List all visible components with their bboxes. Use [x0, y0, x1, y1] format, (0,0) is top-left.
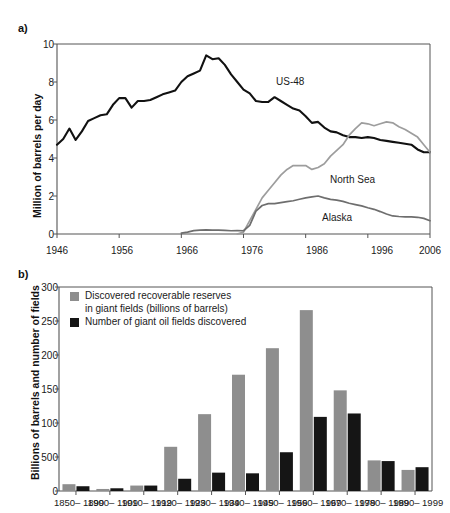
legend-swatch-fields [70, 318, 79, 327]
panel-a-xtick-1946: 1946 [40, 245, 74, 256]
legend-item-fields: Number of giant oil fields discovered [70, 316, 246, 329]
panel-a-xtick-1986: 1986 [300, 245, 334, 256]
legend-swatch-reserves [70, 292, 79, 301]
panel-a-series-label-alaska: Alaska [322, 212, 352, 223]
panel-b-ytick-50: 500 [34, 452, 58, 463]
panel-a-series-label-us48: US-48 [276, 76, 304, 87]
legend-label-fields: Number of giant oil fields discovered [85, 316, 246, 329]
figure-container: a) Million of barrels per day 10 8 6 4 2… [0, 0, 450, 513]
legend-item-reserves: Discovered recoverable reserves in giant… [70, 290, 231, 315]
panel-a-xtick-1976: 1976 [235, 245, 269, 256]
panel-a-ytick-6: 6 [34, 115, 54, 126]
panel-b-ytick-150: 150 [34, 384, 58, 395]
panel-a-ytick-2: 2 [34, 191, 54, 202]
panel-b-xtick-10: 1990– 1999 [393, 497, 437, 509]
panel-b-ytick-100: 100 [34, 418, 58, 429]
panel-a-xtick-1996: 1996 [365, 245, 399, 256]
panel-b-giant-fields-chart: b) Billions of barrels and number of fie… [0, 265, 450, 513]
panel-b-y-axis-title: Billions of barrels and number of fields [29, 285, 41, 480]
panel-a-label: a) [18, 22, 28, 34]
panel-a-oil-production-chart: a) Million of barrels per day 10 8 6 4 2… [0, 0, 450, 265]
panel-a-series-label-north-sea: North Sea [330, 174, 375, 185]
panel-b-ytick-200: 200 [34, 350, 58, 361]
panel-a-ytick-4: 4 [34, 153, 54, 164]
legend-label-reserves: Discovered recoverable reserves in giant… [85, 290, 231, 315]
panel-a-xtick-1966: 1966 [170, 245, 204, 256]
panel-b-ytick-0: 0 [34, 486, 58, 497]
panel-b-ytick-250: 250 [34, 316, 58, 327]
panel-a-ytick-8: 8 [34, 77, 54, 88]
panel-b-ytick-300: 300 [34, 282, 58, 293]
panel-a-xtick-1956: 1956 [105, 245, 139, 256]
panel-a-xtick-2006: 2006 [413, 245, 447, 256]
panel-a-plot-area [0, 0, 450, 265]
panel-a-ytick-0: 0 [34, 229, 54, 240]
panel-a-ytick-10: 10 [34, 39, 54, 50]
panel-b-label: b) [18, 268, 28, 280]
